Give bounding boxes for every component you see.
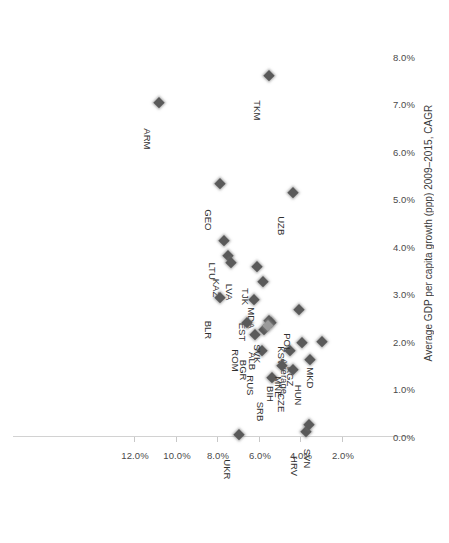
x-axis-tick bbox=[218, 437, 219, 442]
data-point-label-ukr: UKR bbox=[222, 459, 233, 479]
x-axis-tick-label: 10.0% bbox=[163, 450, 190, 461]
data-point-label-svn: SVN bbox=[302, 448, 313, 468]
x-axis-line bbox=[13, 436, 413, 437]
data-point-label-lva: LVA bbox=[224, 284, 235, 301]
y-axis-tick-label: 2.0% bbox=[371, 337, 415, 348]
data-point-label-pol: POL bbox=[282, 333, 293, 352]
y-axis-tick-label: 3.0% bbox=[371, 289, 415, 300]
data-point-label-tkm: TKM bbox=[252, 100, 263, 120]
data-point-mda[interactable] bbox=[258, 277, 269, 288]
x-axis-tick-label: 12.0% bbox=[122, 450, 149, 461]
data-point-uzb[interactable] bbox=[287, 188, 298, 199]
data-point-ltu[interactable] bbox=[218, 236, 229, 247]
data-point-label-arm: ARM bbox=[142, 128, 153, 149]
x-axis-tick bbox=[176, 437, 177, 442]
y-axis-tick-label: 1.0% bbox=[371, 384, 415, 395]
data-point-label-ltu: LTU bbox=[207, 262, 218, 279]
x-axis-tick bbox=[259, 437, 260, 442]
data-point-label-geo: GEO bbox=[203, 209, 214, 230]
y-axis-tick-label: 7.0% bbox=[371, 99, 415, 110]
x-axis-tick bbox=[342, 437, 343, 442]
data-point-ukr[interactable] bbox=[234, 429, 245, 440]
data-point-pol[interactable] bbox=[294, 304, 305, 315]
data-point-mkd[interactable] bbox=[317, 337, 328, 348]
data-point-tjk[interactable] bbox=[252, 262, 263, 273]
data-point-label-cze: CZE bbox=[276, 393, 287, 412]
data-point-label-uzb: UZB bbox=[276, 216, 287, 235]
y-axis-tick-label: 5.0% bbox=[371, 194, 415, 205]
data-point-label-hrv: HRV bbox=[289, 456, 300, 476]
y-axis-tick-label: 8.0% bbox=[371, 52, 415, 63]
data-point-kgz[interactable] bbox=[297, 338, 308, 349]
x-axis-tick-label: 2.0% bbox=[332, 450, 354, 461]
y-axis-title: Average GDP per capita growth (ppp) 2009… bbox=[423, 104, 434, 361]
y-axis-tick-label: 6.0% bbox=[371, 147, 415, 158]
data-point-geo[interactable] bbox=[214, 179, 225, 190]
y-axis-tick-label: 0.0% bbox=[371, 432, 415, 443]
data-point-label-tjk: TJK bbox=[240, 288, 251, 305]
data-point-label-alb: ALB bbox=[247, 352, 258, 370]
scatter-plot-area: 2.0%4.0%6.0%8.0%10.0%12.0% 0.0%1.0%2.0%3… bbox=[0, 0, 449, 543]
data-point-hun[interactable] bbox=[305, 355, 316, 366]
x-axis-tick bbox=[135, 437, 136, 442]
y-axis-tick-label: 4.0% bbox=[371, 242, 415, 253]
x-axis-tick-label: 6.0% bbox=[249, 450, 271, 461]
data-point-label-srb: SRB bbox=[255, 402, 266, 422]
data-point-label-hun: HUN bbox=[293, 385, 304, 406]
data-point-label-blr: BLR bbox=[203, 321, 214, 340]
data-point-tkm[interactable] bbox=[263, 71, 274, 82]
chart-figure: 2.0%4.0%6.0%8.0%10.0%12.0% 0.0%1.0%2.0%3… bbox=[0, 0, 449, 543]
data-point-label-rus: RUS bbox=[245, 375, 256, 395]
x-axis-tick bbox=[301, 437, 302, 442]
data-point-bgr[interactable] bbox=[250, 330, 261, 341]
data-point-label-mkd: MKD bbox=[305, 367, 316, 388]
data-point-arm[interactable] bbox=[154, 98, 165, 109]
